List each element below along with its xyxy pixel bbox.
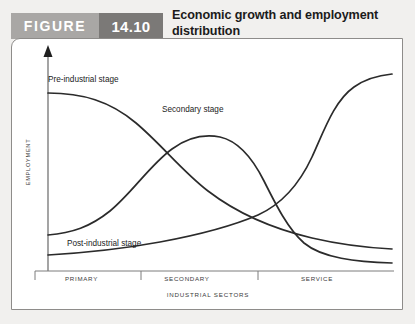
x-tick-label-service: SERVICE <box>262 275 372 282</box>
curve-label-post-industrial: Post-industrial stage <box>67 239 141 248</box>
x-axis-label: INDUSTRIAL SECTORS <box>12 291 404 298</box>
chart-plot-area: EMPLOYMENT Pre-industrial stage Secondar… <box>12 39 404 311</box>
figure-container: FIGURE 14.10 Economic growth and employm… <box>0 0 415 324</box>
curve-label-secondary: Secondary stage <box>162 105 223 114</box>
figure-title: Economic growth and employment distribut… <box>172 7 407 39</box>
curve-pre-industrial <box>48 93 392 249</box>
x-tick-label-secondary: SECONDARY <box>132 275 242 282</box>
figure-number-label: 14.10 <box>99 13 163 39</box>
figure-card: EMPLOYMENT Pre-industrial stage Secondar… <box>11 38 403 310</box>
curve-label-pre-industrial: Pre-industrial stage <box>48 75 119 84</box>
figure-word-label: FIGURE <box>11 13 99 39</box>
y-axis-arrow-icon <box>44 45 53 57</box>
y-axis-label: EMPLOYMENT <box>25 132 31 192</box>
figure-header-band: FIGURE 14.10 <box>11 13 163 39</box>
x-tick-label-primary: PRIMARY <box>34 275 129 282</box>
